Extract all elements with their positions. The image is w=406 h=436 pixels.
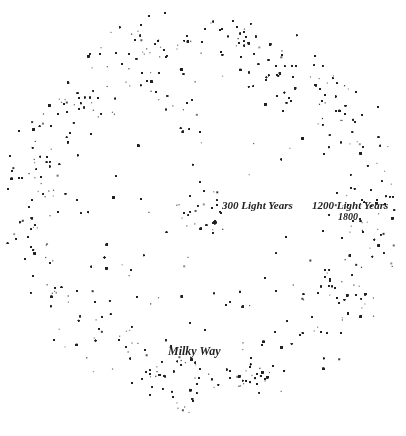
label-year: 1800 [338, 212, 358, 222]
label-1200-light-years: 1200 Light Years [312, 200, 388, 211]
label-300-light-years: 300 Light Years [222, 200, 293, 211]
label-milky-way: Milky Way [168, 345, 221, 357]
